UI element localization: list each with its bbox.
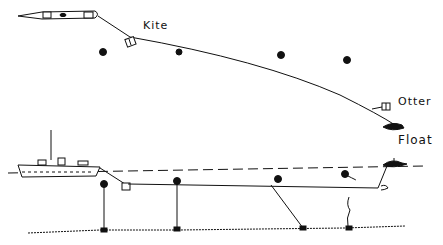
otter-icon	[372, 103, 390, 110]
kite-label: Kite	[143, 19, 168, 32]
side-view	[8, 130, 425, 233]
mine-icon	[176, 49, 182, 55]
mine-icon	[100, 49, 107, 56]
mine-icon	[275, 176, 282, 183]
kite-icon	[125, 37, 136, 48]
mine-icon	[344, 57, 351, 64]
minesweep-diagram	[0, 0, 443, 245]
float-label: Float	[398, 133, 433, 147]
ship-top-view-icon	[18, 11, 98, 19]
float-icon	[383, 123, 404, 129]
mine-icon	[278, 52, 285, 59]
sweep-wire	[98, 16, 395, 125]
mine-icon	[342, 171, 349, 178]
top-view	[18, 11, 404, 130]
ship-side-view-icon	[18, 130, 100, 177]
sweep-wire-underwater	[128, 184, 378, 188]
otter-label: Otter	[398, 95, 432, 108]
otter-side-icon	[381, 185, 388, 190]
mine-icon	[101, 181, 108, 188]
mine-icon	[174, 178, 181, 185]
